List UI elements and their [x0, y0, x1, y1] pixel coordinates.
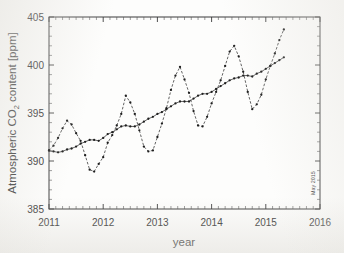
data-point — [197, 95, 199, 97]
data-point — [120, 125, 122, 127]
series-path — [49, 57, 284, 152]
data-point — [156, 113, 158, 115]
data-point — [192, 97, 194, 99]
data-point — [57, 151, 59, 153]
data-point — [269, 65, 271, 67]
data-point — [251, 108, 253, 110]
data-point — [283, 28, 285, 30]
data-point — [125, 95, 127, 97]
data-point — [57, 137, 59, 139]
data-point — [201, 125, 203, 127]
x-tick-label: 2016 — [309, 217, 332, 228]
data-point — [197, 124, 199, 126]
co2-chart-figure: 385390395400405 201120122013201420152016… — [0, 0, 344, 253]
data-series-layer — [48, 28, 285, 172]
data-point — [111, 131, 113, 133]
svg-text:Atmospheric CO2 content [ppm]: Atmospheric CO2 content [ppm] — [6, 32, 21, 193]
data-point — [134, 125, 136, 127]
data-point — [66, 120, 68, 122]
data-point — [242, 71, 244, 73]
data-point — [116, 124, 118, 126]
data-point — [152, 149, 154, 151]
series-path — [49, 29, 284, 171]
data-point — [210, 91, 212, 93]
data-point — [107, 133, 109, 135]
data-point — [134, 113, 136, 115]
data-point — [265, 68, 267, 70]
data-point — [229, 79, 231, 81]
y-tick-label: 390 — [27, 156, 44, 167]
x-axis-title: year — [173, 236, 196, 248]
data-point — [138, 129, 140, 131]
x-tick-label: 2015 — [255, 217, 278, 228]
data-point — [170, 89, 172, 91]
data-point — [70, 147, 72, 149]
data-point — [188, 100, 190, 102]
data-point — [79, 143, 81, 145]
y-axis-title-tail: content [ppm] — [6, 32, 18, 105]
data-point — [274, 62, 276, 64]
data-point — [161, 122, 163, 124]
data-point — [278, 39, 280, 41]
data-point — [247, 74, 249, 76]
data-point — [93, 170, 95, 172]
data-point — [274, 52, 276, 54]
data-point — [210, 102, 212, 104]
data-point — [206, 116, 208, 118]
y-axis-tick-labels: 385390395400405 — [27, 12, 44, 215]
data-point — [256, 72, 258, 74]
data-point — [165, 108, 167, 110]
x-tick-label: 2011 — [38, 217, 60, 228]
data-point — [179, 66, 181, 68]
y-axis-title: Atmospheric CO2 content [ppm] — [6, 32, 21, 193]
data-point — [152, 116, 154, 118]
data-point — [61, 127, 63, 129]
data-point — [192, 110, 194, 112]
x-axis-minor-ticks — [56, 17, 313, 209]
y-axis-title-main: Atmospheric CO — [6, 109, 18, 193]
data-point — [170, 105, 172, 107]
data-point — [84, 154, 86, 156]
data-point — [111, 134, 113, 136]
data-point — [220, 79, 222, 81]
data-point — [52, 150, 54, 152]
x-axis-tick-labels: 201120122013201420152016 — [38, 217, 331, 228]
data-point — [93, 139, 95, 141]
data-point — [238, 55, 240, 57]
data-point — [138, 123, 140, 125]
data-point — [98, 140, 100, 142]
data-point — [52, 144, 54, 146]
data-point — [89, 168, 91, 170]
data-point — [206, 93, 208, 95]
may-2015-annotation: May 2015 — [310, 171, 316, 195]
data-point — [75, 132, 77, 134]
data-point — [183, 78, 185, 80]
data-point — [79, 140, 81, 142]
data-point — [251, 75, 253, 77]
y-axis-major-ticks — [49, 17, 320, 209]
data-point — [89, 139, 91, 141]
data-point — [143, 145, 145, 147]
data-point — [120, 113, 122, 115]
data-point — [224, 82, 226, 84]
x-axis-major-ticks — [49, 17, 320, 209]
data-point — [125, 124, 127, 126]
data-point — [156, 136, 158, 138]
data-point — [183, 100, 185, 102]
data-point — [179, 100, 181, 102]
chart-canvas: 385390395400405 201120122013201420152016… — [0, 0, 344, 253]
data-point — [283, 56, 285, 58]
data-point — [75, 145, 77, 147]
x-tick-label: 2013 — [146, 217, 169, 228]
y-tick-label: 400 — [27, 60, 44, 71]
data-point — [129, 101, 131, 103]
data-point — [260, 94, 262, 96]
data-point — [107, 142, 109, 144]
data-point — [129, 125, 131, 127]
data-point — [143, 120, 145, 122]
data-series — [48, 56, 285, 153]
data-point — [102, 137, 104, 139]
data-point — [84, 141, 86, 143]
data-point — [174, 102, 176, 104]
data-point — [215, 88, 217, 90]
